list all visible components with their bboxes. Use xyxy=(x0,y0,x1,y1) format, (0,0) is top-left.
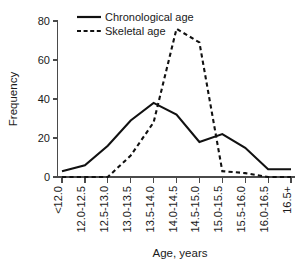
y-tick-label-80: 80 xyxy=(38,15,50,27)
legend-label-chronological-age: Chronological age xyxy=(105,11,194,23)
y-tick-label-60: 60 xyxy=(38,54,50,66)
frequency-line-chart: 0 20 40 60 80 Frequency <12.0 12.0-12.5 xyxy=(0,0,304,277)
chart-canvas: 0 20 40 60 80 Frequency <12.0 12.0-12.5 xyxy=(0,0,304,277)
x-tick-label-8: 15.5-16.0 xyxy=(235,186,247,232)
legend-label-skeletal-age: Skeletal age xyxy=(105,25,166,37)
x-tick-label-7: 15.0-15.5 xyxy=(212,186,224,232)
y-axis-tick-labels: 0 20 40 60 80 xyxy=(38,15,50,183)
x-axis-title: Age, years xyxy=(153,247,208,259)
y-axis-title: Frequency xyxy=(7,72,19,127)
x-tick-label-9: 16.0-16.5 xyxy=(258,186,270,232)
x-tick-label-1: 12.0-12.5 xyxy=(75,186,87,232)
x-axis-ticks xyxy=(62,177,291,183)
y-tick-label-20: 20 xyxy=(38,132,50,144)
x-tick-label-2: 12.5-13.0 xyxy=(98,186,110,232)
y-tick-label-40: 40 xyxy=(38,93,50,105)
x-tick-label-5: 14.0-14.5 xyxy=(167,186,179,232)
x-tick-label-4: 13.5-14.0 xyxy=(144,186,156,232)
x-tick-label-3: 13.0-13.5 xyxy=(121,186,133,232)
x-tick-label-10: 16.5+ xyxy=(281,186,293,214)
y-tick-label-0: 0 xyxy=(44,171,50,183)
x-axis-tick-labels: <12.0 12.0-12.5 12.5-13.0 13.0-13.5 13.5… xyxy=(52,186,293,232)
x-tick-label-6: 14.5-15.0 xyxy=(189,186,201,232)
x-tick-label-0: <12.0 xyxy=(52,186,64,214)
series-line-chronological-age xyxy=(62,103,291,171)
